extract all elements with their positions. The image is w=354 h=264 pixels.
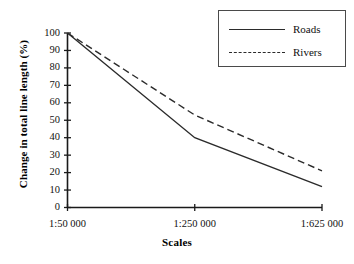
y-tick-label: 50 (34, 115, 60, 125)
x-axis-title: Scales (0, 236, 354, 248)
y-tick-label: 100 (34, 28, 60, 38)
legend-item-rivers: Rivers (219, 44, 345, 60)
y-tick-label: 20 (34, 167, 60, 177)
y-tick-label: 0 (34, 202, 60, 212)
y-tick-label: 10 (34, 185, 60, 195)
y-tick-label: 30 (34, 150, 60, 160)
y-tick-label: 90 (34, 45, 60, 55)
y-tick-label: 40 (34, 132, 60, 142)
line-chart: 0102030405060708090100 1:50 0001:250 000… (0, 0, 354, 264)
y-tick-label: 70 (34, 80, 60, 90)
legend-label-roads: Roads (293, 23, 321, 35)
legend-swatch-dashed-icon (229, 47, 285, 57)
legend-swatch-solid-icon (229, 24, 285, 34)
x-tick-label: 1:625 000 (277, 218, 354, 229)
y-tick-label: 60 (34, 97, 60, 107)
legend: Roads Rivers (218, 10, 346, 67)
y-axis-title: Change in total line length (%) (17, 29, 29, 199)
y-tick-label: 80 (34, 62, 60, 72)
legend-item-roads: Roads (219, 21, 345, 37)
legend-label-rivers: Rivers (293, 46, 322, 58)
x-tick-label: 1:50 000 (23, 218, 113, 229)
x-tick-label: 1:250 000 (150, 218, 240, 229)
